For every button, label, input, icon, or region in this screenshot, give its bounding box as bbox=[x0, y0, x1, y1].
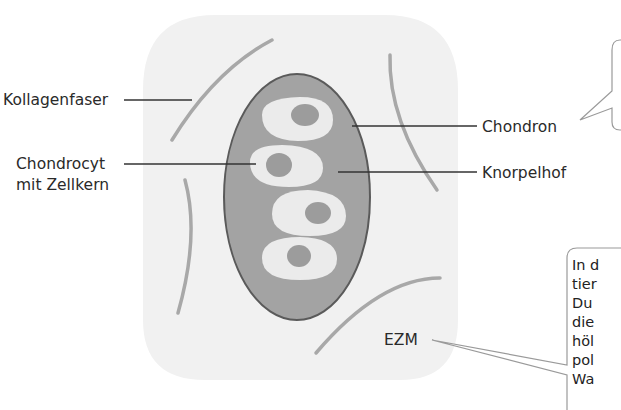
callout-line: pol bbox=[572, 352, 594, 368]
label-chondron: Chondron bbox=[482, 118, 557, 136]
chondrocyte bbox=[262, 97, 333, 141]
chondron-callout bbox=[580, 40, 621, 130]
label-ezm: EZM bbox=[384, 331, 418, 349]
label-mit-zellkern: mit Zellkern bbox=[16, 176, 109, 194]
chondrocyte bbox=[272, 190, 346, 236]
nucleus bbox=[287, 245, 311, 267]
callout-line: In d bbox=[572, 257, 599, 273]
nucleus bbox=[291, 104, 319, 126]
nucleus bbox=[305, 202, 331, 224]
callout-line: tier bbox=[572, 276, 597, 292]
callout-line: höl bbox=[572, 333, 594, 349]
ezm-callout: In d tier Du die höl pol Wa bbox=[432, 248, 621, 410]
chondrocyte bbox=[250, 145, 323, 187]
nucleus bbox=[266, 153, 292, 177]
label-kollagenfaser: Kollagenfaser bbox=[3, 91, 109, 109]
chondrocyte bbox=[262, 237, 337, 280]
callout-line: Du bbox=[572, 295, 592, 311]
label-knorpelhof: Knorpelhof bbox=[482, 164, 567, 182]
label-chondrocyt: Chondrocyt bbox=[16, 155, 105, 173]
callout-line: Wa bbox=[572, 371, 594, 387]
callout-line: die bbox=[572, 314, 594, 330]
cartilage-diagram: Kollagenfaser Chondrocyt mit Zellkern Ch… bbox=[0, 0, 621, 410]
